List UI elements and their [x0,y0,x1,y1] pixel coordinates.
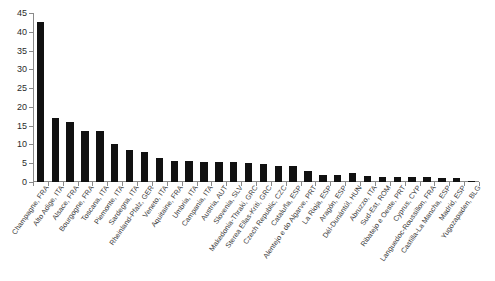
category-labels: Champagne, FRAAlto Adige, ITAAlsace, FRA… [33,184,479,281]
y-tick-label: 0 [22,178,27,187]
bar[interactable] [334,175,341,182]
y-tick-label: 5 [22,159,27,168]
bar[interactable] [304,171,311,182]
bar[interactable] [364,176,371,182]
bar[interactable] [156,158,163,182]
y-tick-label: 35 [17,46,27,55]
bar[interactable] [66,122,73,182]
y-tick-label: 45 [17,9,27,18]
bar[interactable] [141,152,148,182]
bar[interactable] [468,181,475,183]
bar[interactable] [111,144,118,182]
bar[interactable] [379,177,386,182]
bar[interactable] [96,131,103,182]
bar[interactable] [275,166,282,182]
bar[interactable] [289,166,296,182]
bars-layer [33,13,479,182]
bar[interactable] [260,164,267,182]
y-tick-label: 40 [17,27,27,36]
bar[interactable] [394,177,401,182]
bar[interactable] [319,175,326,183]
bar[interactable] [453,178,460,182]
bar[interactable] [81,131,88,182]
bar[interactable] [408,177,415,182]
plot-area: 051015202530354045 [33,13,479,182]
y-tick-label: 15 [17,121,27,130]
bar[interactable] [438,178,445,183]
bar[interactable] [37,22,44,182]
bar[interactable] [423,177,430,182]
bar[interactable] [349,173,356,182]
bar[interactable] [230,162,237,182]
y-tick-label: 30 [17,65,27,74]
bar[interactable] [245,163,252,182]
bar[interactable] [171,161,178,182]
bar[interactable] [200,162,207,182]
y-tick-label: 25 [17,84,27,93]
bar[interactable] [185,161,192,182]
y-tick-label: 10 [17,140,27,149]
bar[interactable] [126,150,133,182]
bar-chart: 051015202530354045 Champagne, FRAAlto Ad… [0,0,495,281]
y-tick-label: 20 [17,102,27,111]
bar[interactable] [52,118,59,182]
bar[interactable] [215,162,222,182]
